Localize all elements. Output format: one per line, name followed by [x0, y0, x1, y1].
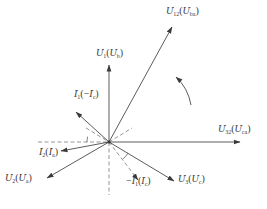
phasor-u2-label: U̇2(U̇a): [5, 173, 32, 184]
rotation-direction-arrow: [176, 77, 191, 105]
phasor-mi1-label: −İ1(İc): [126, 176, 151, 187]
origin-point: [108, 141, 111, 144]
phasor-i2-label: İ2(İa): [39, 147, 58, 158]
phasor-i1-label: İ1(−İc): [74, 89, 99, 100]
reference-line: [86, 128, 109, 142]
phasor-arrows: [47, 27, 240, 181]
angle-arc: [123, 153, 129, 159]
angle-arc: [87, 137, 88, 142]
phasor-u3-label: U̇3(U̇c): [178, 174, 205, 185]
reference-dashed-lines: [38, 128, 132, 195]
phasor-u12-label: U̇12(U̇ba): [166, 6, 199, 17]
phasor-i1-arrow: [76, 112, 109, 142]
phasor-u32-label: U̇32(U̇ca): [218, 124, 250, 135]
phasor-u1-label: U̇1(U̇b): [96, 48, 123, 59]
phasor-u12-arrow: [109, 27, 172, 142]
